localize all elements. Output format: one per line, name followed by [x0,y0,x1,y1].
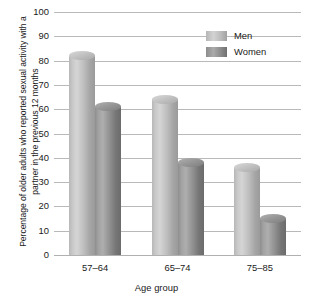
y-axis-title-area: Percentage of older adults who reported … [0,0,30,268]
legend-label-women: Women [234,45,266,58]
y-axis-tick-label: 20 [39,201,49,211]
bar-body [234,168,260,255]
x-axis-tick-label: 75–85 [247,263,273,273]
legend-swatch-men-icon [206,31,227,41]
bar-cap-ellipse [260,214,286,223]
y-axis-tick-label: 0 [44,250,49,260]
bar-cap-ellipse [234,163,260,172]
bar-chart: Percentage of older adults who reported … [0,0,313,302]
legend-item-men: Men [206,29,302,43]
y-axis-tick-label: 100 [33,7,49,17]
bar-group [152,12,204,255]
bar-women-57–64 [95,107,121,255]
bar-women-75–85 [260,219,286,255]
y-axis-tick-label: 50 [39,129,49,139]
y-axis-tick-label: 40 [39,153,49,163]
y-axis-tick-label: 80 [39,56,49,66]
x-axis-title: Age group [0,283,313,293]
x-axis-tick-label: 65–74 [164,263,190,273]
bar-body [69,56,95,255]
legend-label-men: Men [234,29,252,42]
legend-swatch-women-icon [206,47,227,57]
y-axis-tick-label: 10 [39,226,49,236]
y-axis-tick-label: 70 [39,80,49,90]
bar-men-75–85 [234,168,260,255]
bar-body [152,99,178,255]
gridline [54,255,301,256]
bar-women-65–74 [178,163,204,255]
bar-body [95,107,121,255]
bar-cap-ellipse [152,95,178,104]
legend: Men Women [206,29,302,61]
x-axis-tick-label: 57–64 [82,263,108,273]
y-axis-tick-label: 30 [39,177,49,187]
bar-men-65–74 [152,99,178,255]
bar-cap-ellipse [178,158,204,167]
bar-men-57–64 [69,56,95,255]
bar-body [260,219,286,255]
y-axis-tick-label: 60 [39,104,49,114]
bar-group [69,12,121,255]
y-axis-tick-label: 90 [39,31,49,41]
legend-item-women: Women [206,45,302,59]
bar-body [178,163,204,255]
